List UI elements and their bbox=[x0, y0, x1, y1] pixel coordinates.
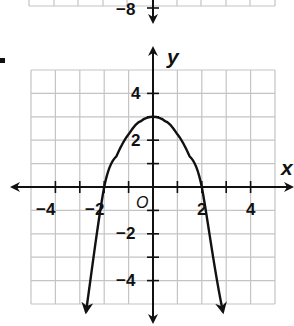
y-tick-label-neg2: −2 bbox=[116, 224, 135, 243]
y-axis-label: y bbox=[166, 45, 180, 68]
x-tick-label-neg4: −4 bbox=[36, 200, 56, 219]
y-tick-label-neg4: −4 bbox=[116, 271, 136, 290]
x-tick-label-pos4: 4 bbox=[246, 200, 256, 219]
y-tick-label-2: 2 bbox=[131, 131, 140, 150]
previous-graph-fragment: −8 bbox=[29, 0, 275, 22]
previous-tick-label: −8 bbox=[116, 0, 135, 19]
x-axis-label: x bbox=[280, 156, 294, 179]
problem-marker bbox=[0, 58, 5, 63]
x-tick-label-pos2: 2 bbox=[197, 200, 206, 219]
x-tick-label-neg2: −2 bbox=[85, 200, 104, 219]
y-tick-label-4: 4 bbox=[131, 84, 141, 103]
origin-label: O bbox=[136, 194, 148, 211]
graph-figure: −8 bbox=[0, 0, 294, 326]
